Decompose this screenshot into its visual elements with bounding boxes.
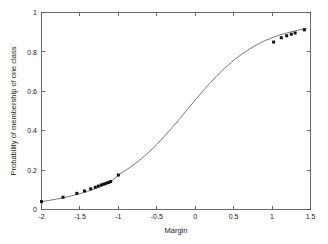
y-tick-label: 1: [33, 9, 37, 16]
data-point-marker: [40, 200, 43, 203]
data-point-marker: [109, 180, 112, 183]
series-observed-points: [40, 28, 306, 203]
data-point-marker: [280, 36, 283, 39]
data-point-marker: [290, 33, 293, 36]
x-tick-label: 0.5: [229, 213, 239, 220]
sigmoid-curve: [42, 28, 307, 201]
data-point-marker: [117, 174, 120, 177]
chart-plot: -2-1.5-1-0.500.511.5 00.20.40.60.81 Marg…: [0, 0, 328, 244]
y-tick-label: 0.8: [27, 49, 37, 56]
data-point-marker: [97, 185, 100, 188]
x-tick-label: -0.5: [151, 213, 163, 220]
data-point-marker: [75, 192, 78, 195]
x-tick-label: -1: [115, 213, 121, 220]
x-axis-label: Margin: [165, 226, 188, 235]
axes-frame: [42, 13, 311, 210]
data-point-marker: [62, 196, 65, 199]
x-tick-label: -1.5: [74, 213, 86, 220]
data-point-marker: [285, 34, 288, 37]
y-tick-label: 0.2: [27, 167, 37, 174]
y-tick-label: 0: [33, 206, 37, 213]
x-tick-label: 1.5: [306, 213, 316, 220]
data-point-marker: [94, 186, 97, 189]
x-tick-label: -2: [38, 213, 44, 220]
y-tick-label: 0.4: [27, 127, 37, 134]
data-point-marker: [303, 28, 306, 31]
figure-canvas: -2-1.5-1-0.500.511.5 00.20.40.60.81 Marg…: [0, 0, 328, 244]
x-tick-label: 0: [193, 213, 197, 220]
data-point-marker: [83, 189, 86, 192]
data-point-marker: [294, 31, 297, 34]
x-tick-label: 1: [270, 213, 274, 220]
x-axis-ticks: -2-1.5-1-0.500.511.5: [38, 13, 315, 221]
data-point-marker: [272, 41, 275, 44]
data-point-marker: [89, 187, 92, 190]
y-axis-label: Probability of membership of one class: [9, 46, 18, 175]
y-tick-label: 0.6: [27, 88, 37, 95]
series-sigmoid-fit: [42, 28, 307, 201]
